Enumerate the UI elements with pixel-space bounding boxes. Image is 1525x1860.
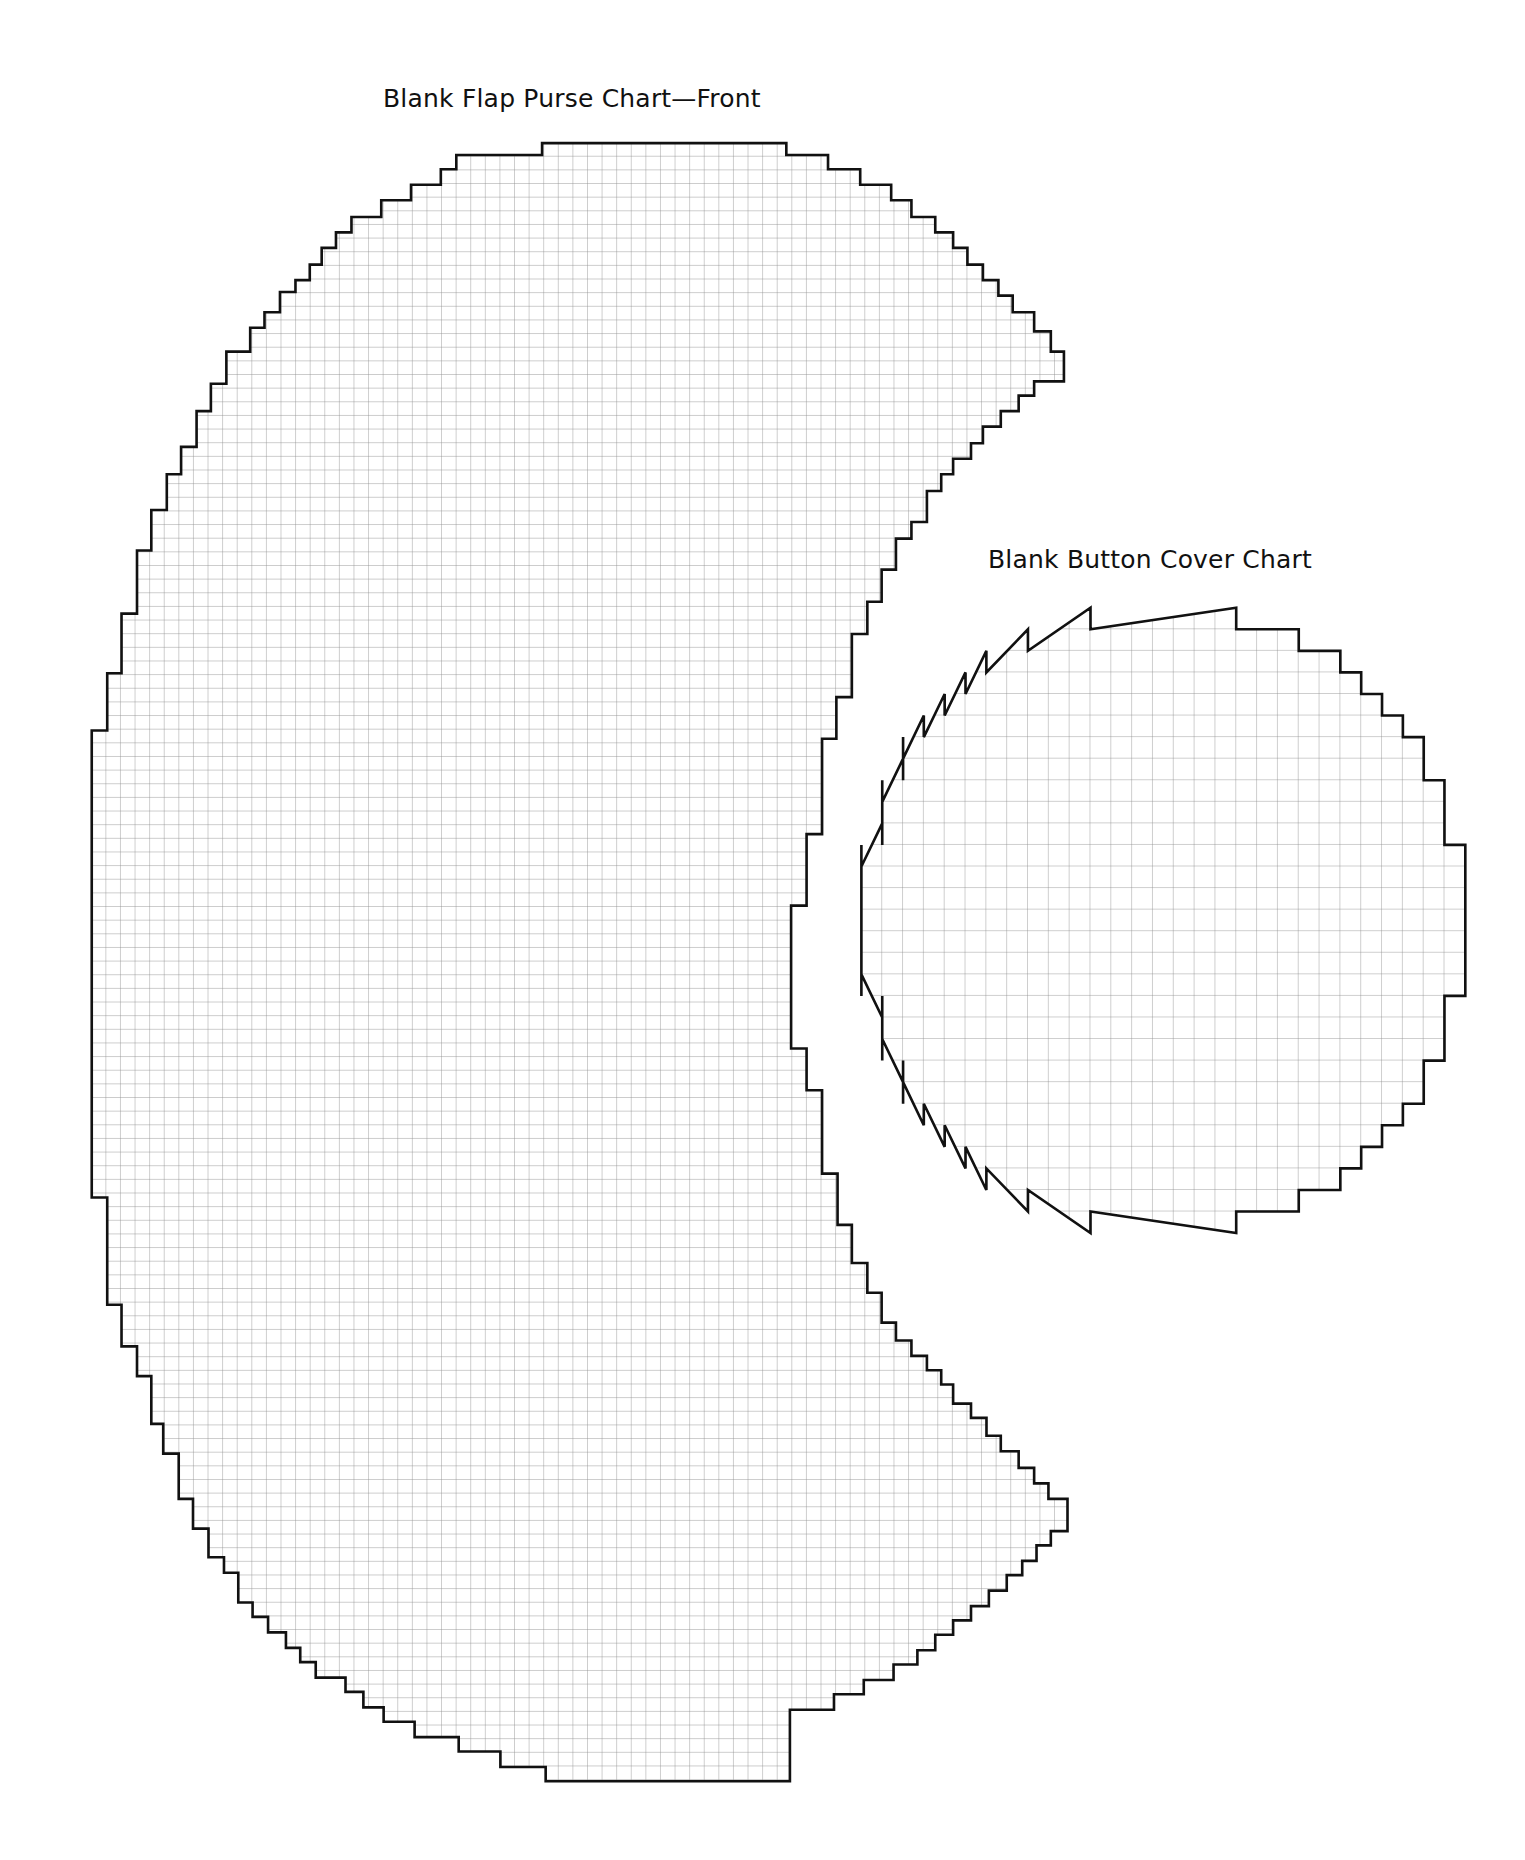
button-cover-chart bbox=[861, 608, 1465, 1233]
charts-canvas bbox=[0, 0, 1525, 1860]
button-grid-shape bbox=[861, 608, 1465, 1233]
